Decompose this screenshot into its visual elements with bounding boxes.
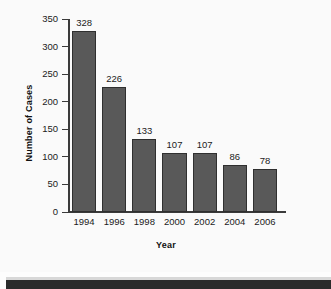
bar-value-label: 133 [122, 125, 166, 136]
bar-value-label: 78 [243, 155, 287, 166]
y-axis-tick [62, 129, 69, 130]
y-axis-tick [62, 156, 69, 157]
y-axis-tick [62, 101, 69, 102]
y-axis-tick-label: 0 [22, 207, 58, 217]
bar-value-label: 107 [183, 139, 227, 150]
y-axis-tick [62, 74, 69, 75]
bottom-dark-band [6, 280, 331, 289]
y-axis-tick-label: 100 [22, 152, 58, 162]
x-axis-tick-label: 2006 [246, 216, 284, 227]
y-axis-tick-label: 350 [22, 14, 58, 24]
bar [253, 169, 277, 212]
y-axis-tick [62, 212, 69, 213]
y-axis-tick-label: 300 [22, 42, 58, 52]
bar-chart-figure: Number of Cases 050100150200250300350 32… [0, 0, 331, 272]
y-axis-tick [62, 184, 69, 185]
page-container: Number of Cases 050100150200250300350 32… [0, 0, 331, 289]
x-axis-title: Year [56, 240, 276, 250]
y-axis-tick [62, 46, 69, 47]
bar [102, 87, 126, 212]
bar-value-label: 328 [62, 17, 106, 28]
bar [193, 153, 217, 212]
y-axis-tick-label: 200 [22, 97, 58, 107]
bar [162, 153, 186, 212]
y-axis-tick-label: 150 [22, 124, 58, 134]
bar-value-label: 226 [92, 73, 136, 84]
bar [72, 31, 96, 212]
y-axis-tick-label: 250 [22, 69, 58, 79]
y-axis-tick-label: 50 [22, 179, 58, 189]
bar [223, 165, 247, 212]
